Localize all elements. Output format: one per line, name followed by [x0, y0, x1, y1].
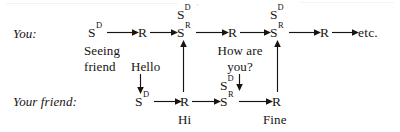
arrow-rb1-to-srb1 [192, 97, 221, 106]
arrow-sr1-to-r2 [196, 28, 229, 37]
node-sd-b1: SD [135, 95, 149, 109]
node-r-3: R [320, 26, 329, 40]
node-sd-1-sup: D [96, 20, 102, 30]
node-r-3-base: R [320, 25, 329, 40]
node-r-b2: R [272, 95, 281, 109]
arrow-srb1-to-rb2 [239, 97, 273, 106]
arrow-r1-to-sr1 [150, 28, 178, 37]
node-etc-base: etc. [358, 25, 378, 40]
node-sr-2-sup: R [278, 20, 284, 30]
node-r-1: R [138, 26, 147, 40]
conversation-chain-diagram: You: Your friend: SD R SR R SR R etc. SD… [0, 0, 400, 132]
arrow-fine-up [273, 40, 282, 92]
caption-seeing: Seeing [84, 44, 120, 57]
scan-artifact-dot [196, 4, 199, 6]
arrow-r2-to-sr2 [240, 28, 271, 37]
caption-hi: Hi [178, 113, 191, 126]
node-sr-1: SR [177, 26, 190, 40]
caption-fine: Fine [263, 113, 287, 126]
node-sd-above-sr-1: SD [177, 8, 191, 22]
node-sd-above-sr-b1: SD [220, 79, 234, 93]
row-label-your-friend: Your friend: [13, 95, 77, 108]
node-sr-2: SR [270, 26, 283, 40]
node-r-2: R [228, 26, 237, 40]
node-sd-above-sr-1-sup: D [185, 2, 191, 12]
node-sr-1-sup: R [185, 20, 191, 30]
arrow-hi-up [179, 40, 188, 92]
node-sr-b1-base: S [220, 94, 228, 109]
node-sd-above-sr-2: SD [270, 8, 284, 22]
caption-friend: friend [84, 60, 116, 73]
row-label-you: You: [13, 27, 37, 40]
node-sd-above-sr-1-base: S [177, 7, 185, 22]
node-sd-1-base: S [88, 25, 96, 40]
scan-artifact-right [300, 2, 394, 3]
node-r-b2-base: R [272, 94, 281, 109]
node-sd-above-sr-b1-base: S [220, 78, 228, 93]
arrow-sd1-to-r1 [107, 28, 139, 37]
node-sr-2-base: S [270, 25, 278, 40]
node-sd-above-sr-2-base: S [270, 7, 278, 22]
node-r-2-base: R [228, 25, 237, 40]
caption-hello: Hello [131, 60, 160, 73]
node-sd-1: SD [88, 26, 102, 40]
node-sr-b1: SR [220, 95, 233, 109]
arrow-how-are-you-down [235, 74, 244, 91]
node-etc: etc. [358, 26, 378, 40]
arrow-hello-down [136, 74, 145, 94]
arrow-sdb1-to-rb1 [154, 97, 182, 106]
arrow-r3-to-etc [332, 28, 359, 37]
node-sd-b1-base: S [135, 94, 143, 109]
caption-how-are: How are [210, 44, 270, 57]
node-r-1-base: R [138, 25, 147, 40]
arrow-sr2-to-r3 [289, 28, 321, 37]
node-sr-1-base: S [177, 25, 185, 40]
node-sd-above-sr-2-sup: D [278, 2, 284, 12]
scan-artifact-left [6, 3, 178, 4]
caption-you: you? [210, 60, 270, 73]
node-sd-above-sr-b1-sup: D [228, 73, 234, 83]
